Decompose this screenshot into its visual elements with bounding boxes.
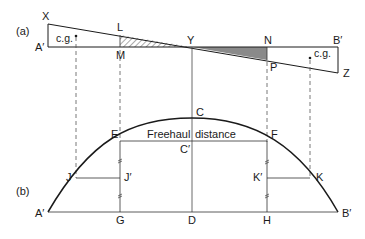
ground-line-xz bbox=[48, 24, 338, 73]
label-j-prime: J′ bbox=[124, 171, 132, 183]
freehaul-label: Freehaul bbox=[147, 128, 190, 140]
label-f: F bbox=[271, 128, 278, 140]
label-x: X bbox=[42, 10, 50, 22]
panel-b-mass-haul bbox=[48, 118, 338, 212]
label-p: P bbox=[270, 61, 277, 73]
shaded-fill-area bbox=[192, 47, 267, 60]
panel-a-tag: (a) bbox=[16, 25, 29, 37]
label-j: J bbox=[66, 171, 72, 183]
label-h: H bbox=[263, 214, 271, 226]
label-cg-right: c.g. bbox=[314, 47, 331, 59]
label-n: N bbox=[264, 34, 272, 46]
label-z: Z bbox=[343, 67, 350, 79]
label-a-prime-bottom: A′ bbox=[35, 207, 44, 219]
label-c: C bbox=[196, 106, 204, 118]
label-c-prime: C′ bbox=[180, 143, 190, 155]
label-k: K bbox=[316, 171, 324, 183]
projection-lines bbox=[76, 37, 310, 178]
equal-tick-marks bbox=[118, 159, 269, 198]
panel-a-profile bbox=[48, 24, 338, 73]
label-e: E bbox=[111, 128, 118, 140]
mass-haul-curve bbox=[48, 118, 338, 212]
label-cg-left: c.g. bbox=[56, 32, 73, 44]
panel-b-tag: (b) bbox=[16, 185, 29, 197]
label-g: G bbox=[116, 214, 125, 226]
label-a-prime-top: A′ bbox=[35, 41, 44, 53]
label-k-prime: K′ bbox=[253, 171, 262, 183]
label-b-prime-top: B′ bbox=[333, 34, 342, 46]
hatched-cut-area bbox=[120, 35, 192, 47]
distance-label: distance bbox=[195, 128, 236, 140]
label-d: D bbox=[188, 214, 196, 226]
label-m: M bbox=[116, 49, 125, 61]
label-y: Y bbox=[187, 34, 195, 46]
label-b-prime-bottom: B′ bbox=[342, 207, 351, 219]
cg-right-dot bbox=[309, 57, 312, 60]
label-l: L bbox=[117, 21, 123, 33]
cg-left-dot bbox=[75, 35, 78, 38]
mass-haul-diagram: (a) X A′ L M Y N P B′ Z c.g. c.g. (b) C … bbox=[0, 0, 365, 239]
